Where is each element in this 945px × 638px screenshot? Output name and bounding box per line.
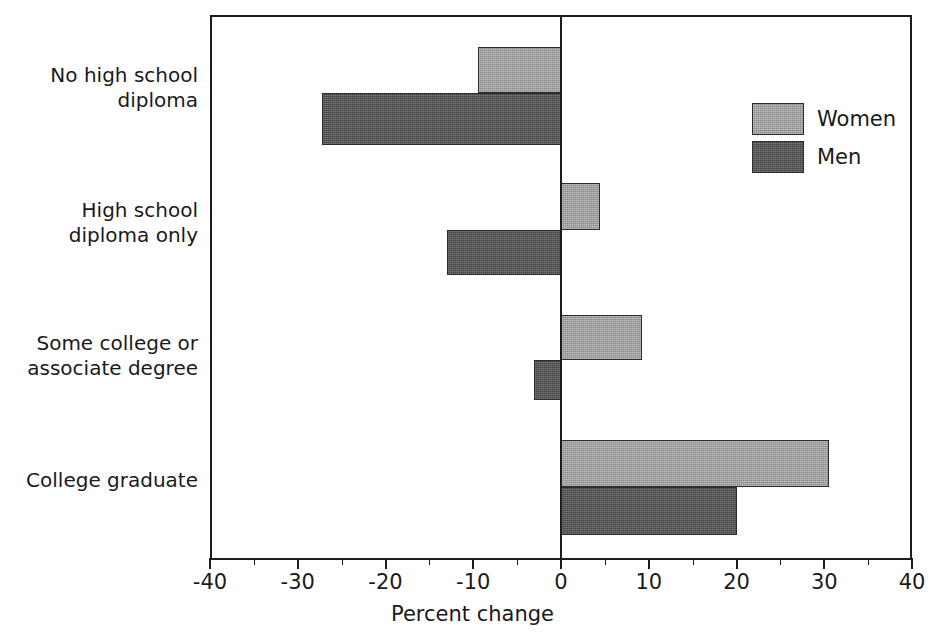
x-tick-major-30 — [823, 558, 825, 569]
bar-women-2 — [561, 183, 600, 230]
bar-women-1 — [478, 47, 561, 93]
bar-women-3 — [561, 315, 642, 360]
x-tick-major--20 — [385, 558, 387, 569]
category-label-2: High schooldiploma only — [8, 198, 198, 248]
bar-chart: No high schooldiplomaHigh schooldiploma … — [0, 0, 945, 638]
category-label-line: No high school — [8, 63, 198, 88]
category-label-3: Some college orassociate degree — [8, 331, 198, 381]
legend-item-men: Men — [752, 138, 896, 176]
zero-baseline — [560, 15, 562, 560]
category-label-line: diploma only — [8, 223, 198, 248]
x-tick-major-40 — [911, 558, 913, 569]
legend-label-men: Men — [817, 145, 861, 169]
x-tick-minor--35 — [254, 558, 255, 565]
category-label-line: Some college or — [8, 331, 198, 356]
x-tick-minor-35 — [868, 558, 869, 565]
x-tick-label--20: -20 — [356, 570, 416, 594]
x-tick-major-10 — [648, 558, 650, 569]
legend: Women Men — [752, 100, 896, 176]
x-tick-label-10: 10 — [619, 570, 679, 594]
category-label-line: College graduate — [8, 468, 198, 493]
x-tick-minor-5 — [605, 558, 606, 565]
x-tick-minor-15 — [693, 558, 694, 565]
bar-men-3 — [534, 360, 561, 400]
x-tick-minor--5 — [517, 558, 518, 565]
x-tick-label-30: 30 — [794, 570, 854, 594]
legend-item-women: Women — [752, 100, 896, 138]
x-tick-major--10 — [472, 558, 474, 569]
men-swatch-icon — [752, 141, 804, 173]
category-label-1: No high schooldiploma — [8, 63, 198, 113]
category-label-line: High school — [8, 198, 198, 223]
category-label-line: associate degree — [8, 356, 198, 381]
bar-men-4 — [561, 487, 737, 535]
x-tick-major--40 — [209, 558, 211, 569]
x-tick-label-0: 0 — [531, 570, 591, 594]
x-tick-label-40: 40 — [882, 570, 942, 594]
x-tick-minor--25 — [342, 558, 343, 565]
bar-men-1 — [322, 93, 561, 145]
bar-women-4 — [561, 440, 829, 487]
category-label-4: College graduate — [8, 468, 198, 493]
x-tick-major-20 — [736, 558, 738, 569]
x-tick-label-20: 20 — [707, 570, 767, 594]
x-tick-minor-25 — [780, 558, 781, 565]
x-tick-major--30 — [297, 558, 299, 569]
x-tick-label--40: -40 — [180, 570, 240, 594]
women-swatch-icon — [752, 103, 804, 135]
category-label-line: diploma — [8, 88, 198, 113]
legend-label-women: Women — [817, 107, 896, 131]
x-axis-title: Percent change — [0, 602, 945, 626]
bar-men-2 — [447, 230, 561, 275]
x-tick-label--10: -10 — [443, 570, 503, 594]
x-tick-label--30: -30 — [268, 570, 328, 594]
x-tick-minor--15 — [429, 558, 430, 565]
